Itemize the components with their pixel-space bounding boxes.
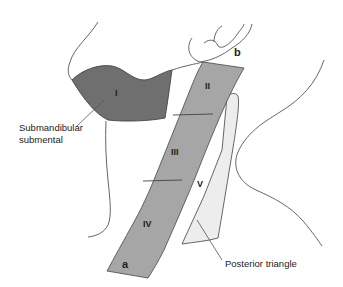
- level-v-label: V: [197, 179, 203, 189]
- level-ii-label: II: [205, 81, 210, 91]
- level-i-caption-line1: Submandibular: [19, 122, 83, 133]
- level-i-label: I: [115, 88, 118, 98]
- diagram-canvas: I II III IV V a b Submandibular submenta…: [0, 0, 343, 287]
- level-iii-label: III: [171, 147, 179, 157]
- ear-outline: [189, 24, 252, 62]
- marker-b: b: [234, 46, 241, 58]
- level-v-caption: Posterior triangle: [225, 258, 297, 269]
- neck-levels-diagram: I II III IV V a b Submandibular submenta…: [0, 0, 343, 287]
- marker-a: a: [122, 258, 129, 270]
- neck-front-outline: [88, 121, 110, 237]
- level-i-caption-line2: submental: [19, 134, 63, 145]
- ear-tragus-outline: [214, 26, 222, 42]
- level-iv-label: IV: [143, 219, 152, 229]
- level-i-region: [72, 66, 172, 121]
- jaw-line-outline: [172, 62, 203, 70]
- neck-back-outline: [236, 60, 324, 246]
